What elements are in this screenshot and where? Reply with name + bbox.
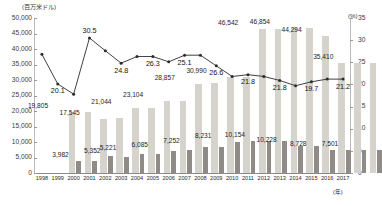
- bar-value-label-sub: 7,501: [314, 141, 346, 148]
- bar-value-label-sub: 10,228: [251, 137, 283, 144]
- ratio-value-label: 25.1: [171, 59, 199, 66]
- y-axis-tick-label: 25,000: [2, 92, 32, 99]
- bar-value-label-total: 19,805: [22, 103, 54, 110]
- y-axis-tick-label: 15,000: [2, 123, 32, 130]
- y-axis-tick-mark: [34, 173, 37, 174]
- y-axis-tick-label: 45,000: [2, 30, 32, 37]
- y-axis-tick-mark: [34, 80, 37, 81]
- y-axis-tick-mark: [34, 142, 37, 143]
- ratio-data-point: [199, 54, 202, 57]
- ratio-value-label: 24.8: [107, 67, 135, 74]
- y-axis-tick-label: 30,000: [2, 77, 32, 84]
- bar-value-label-sub: 7,252: [156, 138, 188, 145]
- y-axis-tick-mark: [34, 127, 37, 128]
- bar-value-label-sub: 3,982: [45, 152, 77, 159]
- ratio-data-point: [326, 78, 329, 81]
- bar-value-label-total: 21,044: [85, 99, 117, 106]
- y-axis-tick-label: 50,000: [2, 15, 32, 22]
- y2-axis-tick-mark: [350, 107, 353, 108]
- bar-value-label-sub: 8,231: [187, 133, 219, 140]
- y-axis-tick-mark: [34, 158, 37, 159]
- y-axis-tick-label: 10,000: [2, 139, 32, 146]
- bar-total: [370, 63, 377, 173]
- ratio-value-label: 19.7: [297, 85, 325, 92]
- bar-value-label-total: 17,545: [54, 110, 86, 117]
- ratio-data-point: [151, 55, 154, 58]
- ratio-value-label: 21.8: [266, 84, 294, 91]
- bar-value-label-total: 28,857: [149, 75, 181, 82]
- y2-axis-tick-mark: [350, 62, 353, 63]
- bar-value-label-total: 46,542: [212, 20, 244, 27]
- y-axis-tick-mark: [34, 65, 37, 66]
- y-axis-tick-label: 40,000: [2, 46, 32, 53]
- y-axis-tick-mark: [34, 34, 37, 35]
- ratio-data-point: [40, 53, 43, 56]
- bar-total: [354, 63, 361, 173]
- y2-axis-tick-mark: [350, 151, 353, 152]
- bar-value-label-sub: 5,221: [92, 145, 124, 152]
- ratio-value-label: 26.6: [202, 69, 230, 76]
- ratio-value-label: 30.5: [75, 27, 103, 34]
- y-axis-tick-mark: [34, 111, 37, 112]
- y-axis-tick-label: 35,000: [2, 61, 32, 68]
- ratio-data-point: [342, 78, 345, 81]
- ratio-data-point: [104, 49, 107, 52]
- ratio-value-label: 21.8: [234, 78, 262, 85]
- ratio-value-label: 21.2: [329, 83, 357, 90]
- bar-value-label-total: 46,854: [244, 19, 276, 26]
- ratio-data-point: [215, 64, 218, 67]
- x-axis-tick-label: 2017: [334, 176, 352, 182]
- ratio-value-label: 26.3: [139, 60, 167, 67]
- bar-value-label-total: 35,410: [307, 54, 339, 61]
- bar-sub: [362, 150, 367, 173]
- bar-value-label-sub: 10,154: [219, 132, 251, 139]
- ratio-data-point: [183, 54, 186, 57]
- y2-axis-tick-mark: [350, 18, 353, 19]
- y2-axis-tick-label: 30: [358, 37, 372, 44]
- y2-axis-tick-mark: [350, 40, 353, 41]
- y-axis-tick-label: 0: [2, 170, 32, 177]
- bar-value-label-sub: 6,085: [124, 142, 156, 149]
- y-axis-tick-mark: [34, 18, 37, 19]
- y2-axis-tick-mark: [350, 173, 353, 174]
- ratio-data-point: [246, 73, 249, 76]
- ratio-data-point: [136, 55, 139, 58]
- y-axis-tick-mark: [34, 49, 37, 50]
- y2-axis-tick-label: 35: [358, 15, 372, 22]
- bar-value-label-sub: 8,728: [282, 141, 314, 148]
- y2-axis-tick-mark: [350, 129, 353, 130]
- bar-value-label-total: 44,294: [276, 27, 308, 34]
- ratio-value-label: 20.1: [44, 87, 72, 94]
- bar-sub: [377, 150, 382, 173]
- bar-value-label-total: 23,104: [117, 92, 149, 99]
- y-axis-tick-label: 5,000: [2, 154, 32, 161]
- ratio-data-point: [72, 93, 75, 96]
- ratio-data-point: [262, 75, 265, 78]
- ratio-data-point: [88, 36, 91, 39]
- x-axis-unit-label: (年): [333, 188, 343, 196]
- ratio-data-point: [278, 79, 281, 82]
- ratio-data-point: [120, 62, 123, 65]
- ratio-data-point: [310, 80, 313, 83]
- y-axis-tick-mark: [34, 96, 37, 97]
- ratio-data-point: [56, 82, 59, 85]
